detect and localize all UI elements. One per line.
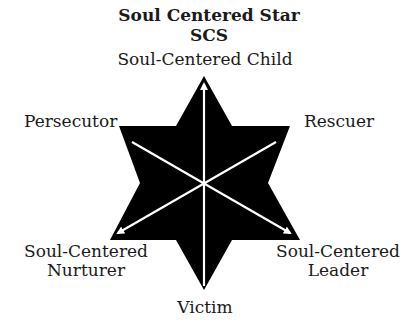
star-diagram	[0, 0, 418, 327]
